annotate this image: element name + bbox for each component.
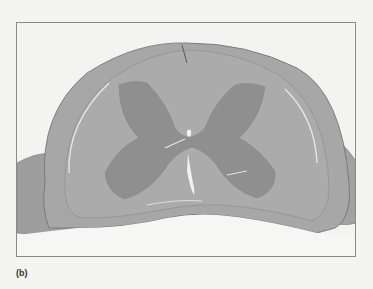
spinal-cord-section-image xyxy=(17,23,356,257)
figure-label: (b) xyxy=(16,268,28,278)
micrograph-frame xyxy=(16,22,356,257)
